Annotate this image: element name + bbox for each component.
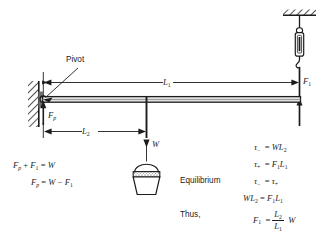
- spring-scale: [295, 15, 303, 67]
- equation-result: F1 =L2L1 W: [253, 210, 295, 232]
- dimension-L1: [43, 72, 299, 96]
- equation-right-3: τ− = τ+: [254, 177, 278, 187]
- equilibrium-label: Equilibrium: [180, 177, 221, 185]
- dimension-L2: [43, 122, 146, 138]
- equation-right-1: τ− = WL2: [254, 143, 287, 153]
- horizontal-beam: [43, 97, 301, 103]
- equation-right-2: τ+ = F1L1: [254, 160, 288, 170]
- thus-label: Thus,: [180, 211, 200, 219]
- equation-left-2: Fp = W − F1: [31, 178, 73, 188]
- dimension-L2-label: L2: [82, 127, 90, 137]
- dimension-L1-label: L1: [163, 78, 171, 88]
- pivot-label: Pivot: [66, 56, 84, 64]
- wall-support: [28, 81, 39, 127]
- hanging-bucket: [133, 164, 160, 194]
- weight-W-label: W: [152, 140, 159, 149]
- equation-right-4: WL2 = F1L1: [243, 194, 283, 204]
- ceiling-support: [283, 10, 316, 16]
- force-Fp-label: Fp: [48, 111, 56, 121]
- force-F1-label: F1: [303, 77, 311, 87]
- equation-left-1: Fp + F1 = W: [13, 161, 55, 171]
